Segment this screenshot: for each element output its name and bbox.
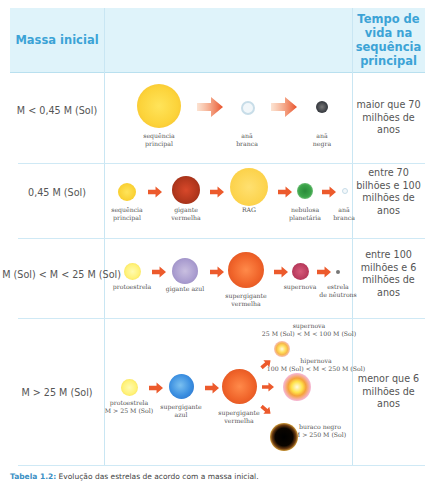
arrow-right-icon	[210, 266, 224, 278]
red-supergiant-icon	[222, 369, 257, 404]
black-dwarf-icon	[316, 101, 328, 113]
white-dwarf-icon	[241, 101, 255, 115]
table-row: M > 25 M (Sol) protoestrelaM > 25 M (Sol…	[10, 319, 425, 465]
protostar-icon	[121, 379, 138, 396]
stage-label: buraco negroM > 250 M (Sol)	[294, 423, 346, 439]
arrow-right-icon	[278, 186, 292, 198]
arrow-down-right-icon	[258, 402, 274, 417]
header-lifetime: Tempo de vida na sequência principal	[352, 8, 425, 72]
stage-label: supergigantevermelha	[225, 292, 266, 308]
caption-prefix: Tabela 1.2:	[10, 472, 56, 481]
rag-star-icon	[230, 168, 268, 206]
stage-label: protoestrelaM > 25 M (Sol)	[105, 399, 153, 415]
arrow-right-icon	[210, 186, 224, 198]
planetary-nebula-icon	[297, 183, 313, 199]
evolution-diagram: sequênciaprincipal anãbranca anãnegra	[104, 73, 352, 163]
arrow-right-icon	[317, 266, 331, 278]
row-divider	[18, 465, 425, 466]
stage-label: supergiganteazul	[160, 403, 201, 419]
supernova-icon	[274, 341, 290, 357]
red-supergiant-icon	[228, 252, 264, 288]
neutron-star-icon	[336, 270, 340, 274]
header-mass: Massa inicial	[10, 8, 104, 72]
arrow-right-icon	[322, 186, 336, 198]
header-evolution	[104, 8, 352, 72]
arrow-right-icon	[274, 266, 288, 278]
arrow-right-icon	[205, 382, 219, 394]
lifetime-cell: menor que 6 milhões de anos	[352, 319, 425, 465]
table-row: 0,45 M (Sol) sequênciaprincipal gigantev…	[10, 164, 425, 238]
stage-label: supergigantevermelha	[218, 409, 259, 425]
arrow-right-icon	[197, 97, 223, 117]
stage-label: sequênciaprincipal	[143, 132, 175, 148]
arrow-right-icon	[148, 186, 162, 198]
mass-cell: 0,45 M (Sol)	[10, 164, 104, 220]
stage-label: hipernova100 M (Sol) < M < 250 M (Sol)	[267, 357, 365, 373]
arrow-right-icon	[271, 97, 297, 117]
table-caption: Tabela 1.2: Evolução das estrelas de aco…	[10, 472, 259, 481]
table-row: 8 M (Sol) < M < 25 M (Sol) protoestrela …	[10, 239, 425, 318]
lifetime-cell: entre 100 milhões e 6 milhões de anos	[352, 239, 425, 309]
blue-supergiant-icon	[169, 374, 194, 399]
stage-label: supernova	[284, 283, 317, 291]
lifetime-cell: maior que 70 milhões de anos	[352, 73, 425, 163]
arrow-right-icon	[149, 382, 163, 394]
protostar-icon	[124, 263, 141, 280]
stage-label: anãbranca	[236, 132, 258, 148]
table-header: Massa inicial Tempo de vida na sequência…	[10, 8, 425, 73]
mass-cell: 8 M (Sol) < M < 25 M (Sol)	[10, 239, 104, 309]
arrow-right-icon	[262, 382, 274, 392]
lifetime-cell: entre 70 bilhões e 100 milhões de anos	[352, 164, 425, 220]
stage-label: RAG	[242, 206, 256, 214]
arrow-right-icon	[152, 266, 166, 278]
yellow-star-icon	[137, 84, 181, 128]
blue-giant-icon	[172, 258, 198, 284]
mass-cell: M < 0,45 M (Sol)	[10, 73, 104, 147]
stage-label: nebulosaplanetária	[289, 206, 321, 222]
stage-label: gigantevermelha	[171, 206, 200, 222]
supernova-icon	[292, 263, 309, 280]
white-dwarf-icon	[342, 188, 348, 194]
evolution-diagram: protoestrela gigante azul supergiganteve…	[104, 239, 352, 318]
stage-label: protoestrela	[113, 283, 151, 291]
caption-text: Evolução das estrelas de acordo com a ma…	[59, 472, 259, 481]
stage-label: gigante azul	[166, 285, 205, 293]
mass-cell: M > 25 M (Sol)	[10, 319, 104, 465]
stage-label: anãnegra	[313, 132, 331, 148]
yellow-star-icon	[118, 183, 136, 201]
table-row: M < 0,45 M (Sol) sequênciaprincipal anãb…	[10, 73, 425, 163]
red-giant-icon	[172, 176, 200, 204]
evolution-diagram: protoestrelaM > 25 M (Sol) supergigantea…	[104, 319, 352, 465]
stage-label: sequênciaprincipal	[111, 206, 143, 222]
hypernova-icon	[283, 373, 311, 401]
evolution-diagram: sequênciaprincipal gigantevermelha RAG n…	[104, 164, 352, 238]
black-hole-icon	[270, 423, 298, 451]
stage-label: supernova25 M (Sol) < M < 100 M (Sol)	[262, 322, 356, 338]
